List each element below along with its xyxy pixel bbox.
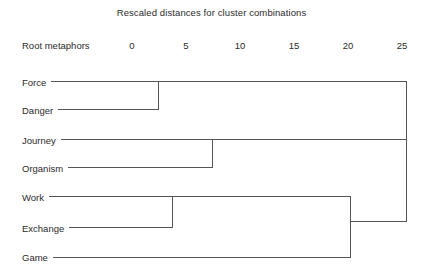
merge-force-danger bbox=[159, 82, 407, 110]
dendrogram-tree bbox=[0, 0, 423, 275]
leaf-branches bbox=[49, 82, 407, 258]
merge-workexchange-game bbox=[351, 197, 407, 258]
dendrogram-figure: Rescaled distances for cluster combinati… bbox=[0, 0, 423, 275]
